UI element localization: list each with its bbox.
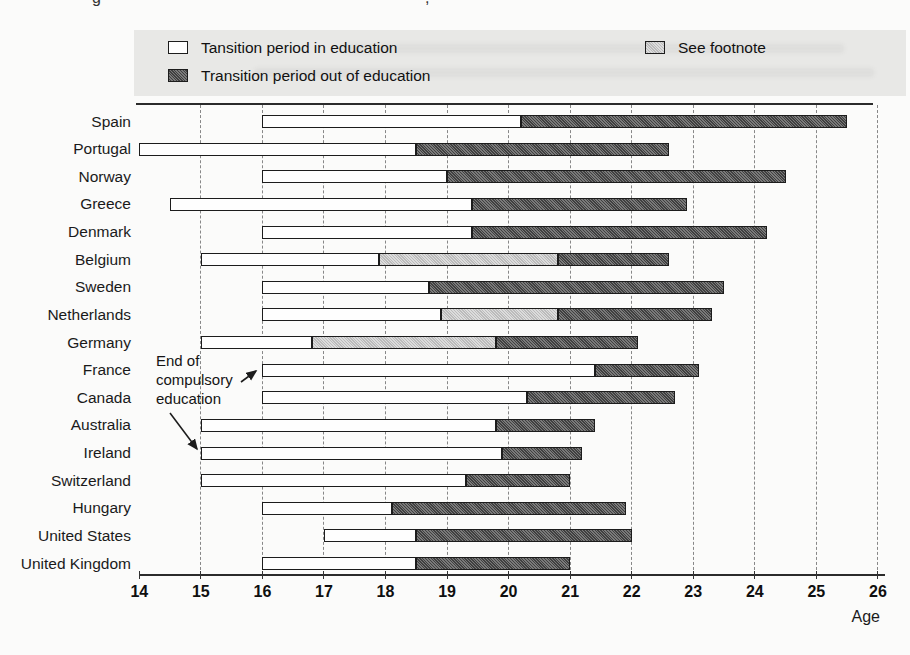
x-axis-tick-19 bbox=[447, 571, 448, 579]
bar-norway-in bbox=[262, 170, 447, 183]
bar-switzerland-out bbox=[466, 474, 571, 487]
arrow-to-france-bar bbox=[241, 371, 256, 382]
country-label-portugal: Portugal bbox=[0, 140, 131, 158]
x-axis-tick-22 bbox=[631, 571, 632, 579]
bar-germany-footnote bbox=[312, 336, 497, 349]
bar-australia-in bbox=[201, 419, 496, 432]
bar-belgium-out bbox=[558, 253, 669, 266]
plot-top-border bbox=[136, 103, 873, 105]
bar-canada-in bbox=[262, 391, 527, 404]
x-axis-tick-label-24: 24 bbox=[735, 583, 775, 601]
bar-ireland-out bbox=[502, 447, 582, 460]
country-label-greece: Greece bbox=[0, 195, 131, 213]
country-label-france: France bbox=[0, 361, 131, 379]
legend: Tansition period in education Transition… bbox=[134, 30, 906, 96]
bar-netherlands-footnote bbox=[441, 308, 558, 321]
country-label-united-states: United States bbox=[0, 527, 131, 545]
bar-hungary-in bbox=[262, 502, 391, 515]
x-axis-tick-26 bbox=[877, 571, 878, 579]
bar-united-kingdom-in bbox=[262, 557, 416, 570]
annotation-line: End of bbox=[156, 351, 233, 370]
bar-switzerland-in bbox=[201, 474, 466, 487]
bar-belgium-footnote bbox=[379, 253, 557, 266]
bar-netherlands-in bbox=[262, 308, 440, 321]
legend-label-out-of-education: Transition period out of education bbox=[201, 67, 431, 85]
bar-canada-out bbox=[527, 391, 675, 404]
annotation-line: education bbox=[156, 389, 233, 408]
bar-hungary-out bbox=[392, 502, 626, 515]
bar-greece-out bbox=[472, 198, 687, 211]
bar-belgium-in bbox=[201, 253, 379, 266]
cropped-text-remnant: , bbox=[425, 0, 429, 7]
x-axis-tick-label-17: 17 bbox=[304, 583, 344, 601]
gridline-age-26 bbox=[877, 105, 878, 575]
bar-sweden-out bbox=[429, 281, 724, 294]
x-axis-tick-label-18: 18 bbox=[366, 583, 406, 601]
x-axis-tick-label-14: 14 bbox=[119, 583, 159, 601]
country-label-canada: Canada bbox=[0, 389, 131, 407]
bar-denmark-out bbox=[472, 226, 767, 239]
bar-france-out bbox=[595, 364, 700, 377]
country-label-netherlands: Netherlands bbox=[0, 306, 131, 324]
cropped-text-remnant: g bbox=[92, 0, 101, 7]
country-label-norway: Norway bbox=[0, 168, 131, 186]
bar-spain-out bbox=[521, 115, 847, 128]
legend-label-in-education: Tansition period in education bbox=[201, 39, 397, 57]
x-axis-tick-label-23: 23 bbox=[673, 583, 713, 601]
legend-swatch-see-footnote bbox=[645, 41, 665, 54]
bar-ireland-in bbox=[201, 447, 503, 460]
x-axis-tick-14 bbox=[139, 571, 140, 579]
legend-item-in-education: Tansition period in education bbox=[168, 40, 397, 55]
page-bleed-through bbox=[344, 44, 844, 53]
country-label-belgium: Belgium bbox=[0, 251, 131, 269]
bar-france-in bbox=[262, 364, 594, 377]
x-axis-tick-23 bbox=[693, 571, 694, 579]
bar-united-kingdom-out bbox=[416, 557, 570, 570]
bar-germany-in bbox=[201, 336, 312, 349]
scanned-chart-page: g , Tansition period in education Transi… bbox=[0, 0, 910, 655]
x-axis-title: Age bbox=[800, 608, 880, 626]
bar-united-states-in bbox=[324, 529, 416, 542]
x-axis-tick-25 bbox=[816, 571, 817, 579]
x-axis-tick-label-26: 26 bbox=[858, 583, 898, 601]
country-label-denmark: Denmark bbox=[0, 223, 131, 241]
country-label-sweden: Sweden bbox=[0, 278, 131, 296]
bar-spain-in bbox=[262, 115, 521, 128]
x-axis-tick-label-20: 20 bbox=[489, 583, 529, 601]
legend-swatch-in-education bbox=[168, 41, 188, 54]
legend-item-out-of-education: Transition period out of education bbox=[168, 68, 431, 83]
x-axis-tick-18 bbox=[385, 571, 386, 579]
bar-united-states-out bbox=[416, 529, 631, 542]
bar-greece-in bbox=[170, 198, 472, 211]
x-axis-tick-label-21: 21 bbox=[550, 583, 590, 601]
gridline-age-25 bbox=[816, 105, 817, 575]
bar-germany-out bbox=[496, 336, 638, 349]
bar-netherlands-out bbox=[558, 308, 712, 321]
country-label-ireland: Ireland bbox=[0, 444, 131, 462]
legend-item-see-footnote: See footnote bbox=[645, 40, 766, 55]
bar-australia-out bbox=[496, 419, 594, 432]
bar-norway-out bbox=[447, 170, 786, 183]
country-label-united-kingdom: United Kingdom bbox=[0, 555, 131, 573]
x-axis-tick-label-16: 16 bbox=[242, 583, 282, 601]
x-axis-tick-label-25: 25 bbox=[796, 583, 836, 601]
x-axis-tick-16 bbox=[262, 571, 263, 579]
x-axis-line bbox=[139, 574, 885, 576]
country-label-spain: Spain bbox=[0, 113, 131, 131]
bar-portugal-out bbox=[416, 143, 668, 156]
cropped-text-remnants: g , bbox=[0, 0, 910, 8]
arrow-to-ireland-bar bbox=[170, 413, 197, 449]
bar-denmark-in bbox=[262, 226, 471, 239]
x-axis-tick-24 bbox=[754, 571, 755, 579]
legend-label-see-footnote: See footnote bbox=[678, 39, 766, 57]
annotation-line: compulsory bbox=[156, 370, 233, 389]
bar-sweden-in bbox=[262, 281, 428, 294]
x-axis-tick-15 bbox=[200, 571, 201, 579]
x-axis-tick-label-22: 22 bbox=[612, 583, 652, 601]
x-axis-tick-label-19: 19 bbox=[427, 583, 467, 601]
country-label-switzerland: Switzerland bbox=[0, 472, 131, 490]
country-label-germany: Germany bbox=[0, 334, 131, 352]
bar-portugal-in bbox=[139, 143, 416, 156]
country-label-hungary: Hungary bbox=[0, 499, 131, 517]
annotation-end-of-compulsory-education: End of compulsory education bbox=[156, 351, 233, 408]
